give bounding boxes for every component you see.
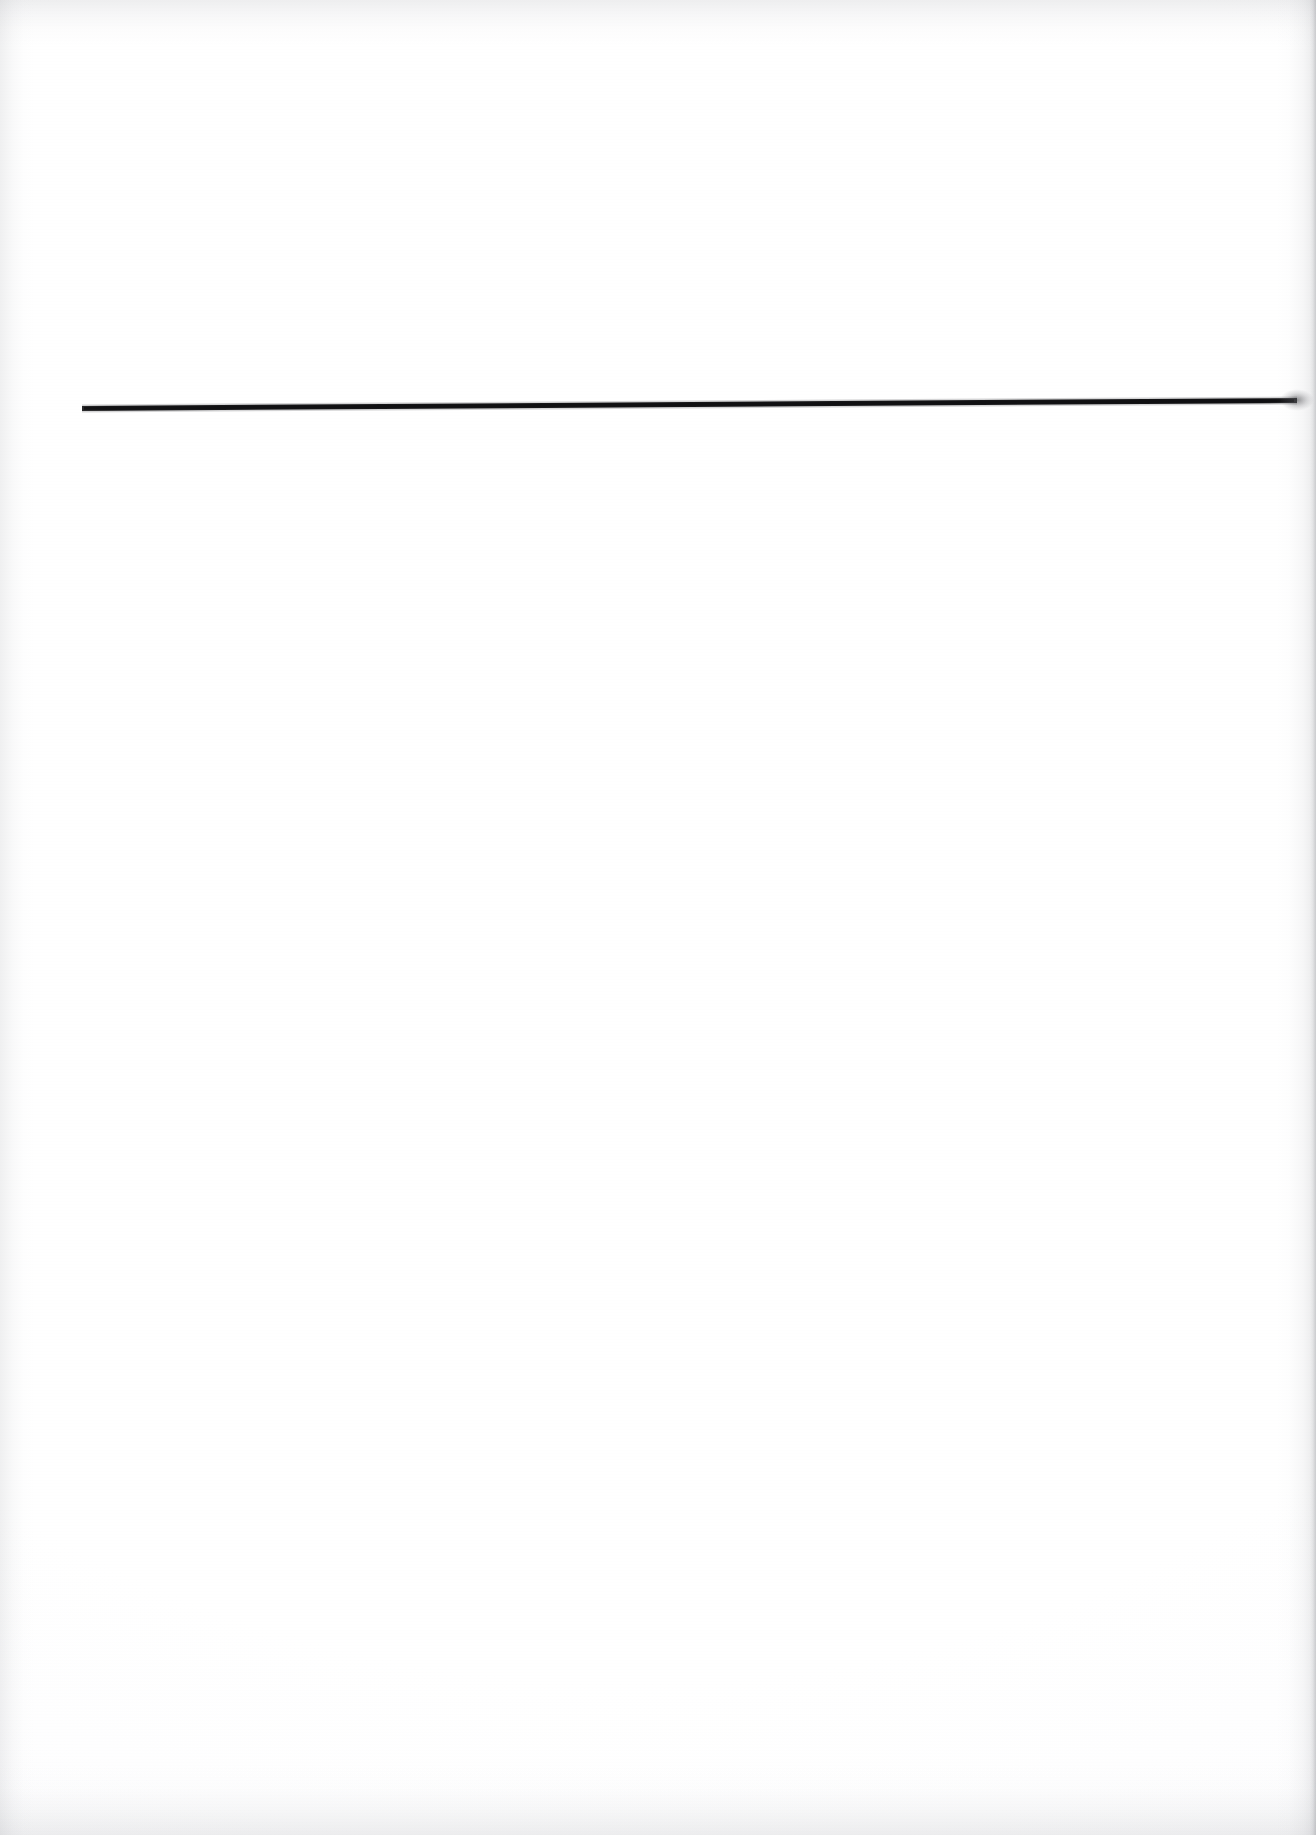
paper-tone — [0, 0, 1316, 1835]
horizontal-rule — [82, 401, 1297, 409]
rule-halo — [82, 401, 1297, 409]
scan-edge-left — [0, 0, 34, 1835]
bleed-through-ghost — [292, 86, 428, 114]
scan-edge-right — [1276, 0, 1316, 1835]
scan-edge-bottom — [0, 1765, 1316, 1835]
scan-grain — [0, 0, 1316, 1835]
rule-end-blot — [1280, 389, 1314, 411]
scan-edge-right-strip — [1310, 0, 1316, 1835]
rule-core — [84, 401, 1294, 409]
scan-edge-top — [0, 0, 1316, 46]
scanned-page — [0, 0, 1316, 1835]
rule-layer — [0, 0, 1316, 1835]
